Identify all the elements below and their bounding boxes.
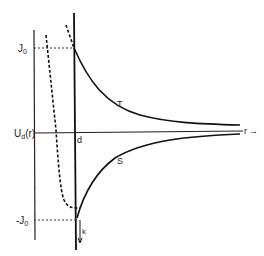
label-potential: Ud(r) <box>14 128 35 140</box>
curve-T <box>74 48 240 125</box>
label-r-axis: r→ <box>244 126 258 136</box>
dashed-curve-top-segment <box>66 25 74 48</box>
label-S: S <box>117 156 123 166</box>
r-axis <box>34 131 243 133</box>
label-k: k <box>82 227 87 236</box>
potential-diagram: J0 -J0 Ud(r) d T S k r→ <box>0 0 264 256</box>
label-T: T <box>117 99 123 109</box>
label-d: d <box>77 135 82 145</box>
curve-S <box>77 134 240 218</box>
label-j0-bottom: -J0 <box>16 215 28 227</box>
label-j0-top: J0 <box>18 43 27 55</box>
